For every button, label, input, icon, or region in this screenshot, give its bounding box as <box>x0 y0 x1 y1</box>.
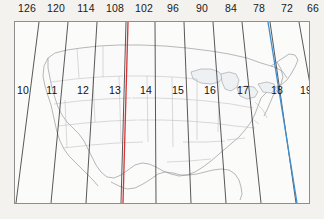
longitude-tick-label: 96 <box>167 2 179 14</box>
zone-label: 17 <box>237 84 249 96</box>
longitude-tick-label: 108 <box>106 2 124 14</box>
longitude-tick-label: 72 <box>281 2 293 14</box>
zone-label: 16 <box>204 84 216 96</box>
longitude-tick-label: 114 <box>77 2 94 14</box>
longitude-tick-label: 120 <box>47 2 65 14</box>
zone-label: 18 <box>271 84 283 96</box>
map-frame: 10 11 12 13 14 15 16 17 18 19 <box>14 21 310 204</box>
zone-label: 13 <box>109 84 121 96</box>
zone-label: 12 <box>77 84 89 96</box>
longitude-tick-label: 66 <box>307 2 319 14</box>
gulf-and-florida-coastline <box>111 169 242 200</box>
zone-label: 19 <box>300 84 310 96</box>
us-landmass <box>48 45 298 178</box>
longitude-tick-label: 90 <box>196 2 208 14</box>
longitude-axis: 126 120 114 108 102 96 90 84 78 72 66 <box>0 0 324 21</box>
zone-label: 15 <box>172 84 184 96</box>
zone-label: 10 <box>17 84 29 96</box>
map-canvas <box>15 22 309 203</box>
longitude-tick-label: 84 <box>225 2 237 14</box>
zone-label: 14 <box>140 84 152 96</box>
zone-label: 11 <box>46 84 57 96</box>
longitude-tick-label: 102 <box>135 2 153 14</box>
timezone-utm-zone-map: 126 120 114 108 102 96 90 84 78 72 66 <box>0 0 324 219</box>
longitude-tick-label: 126 <box>18 2 36 14</box>
blue-meridian-line <box>268 22 297 203</box>
longitude-tick-label: 78 <box>253 2 265 14</box>
